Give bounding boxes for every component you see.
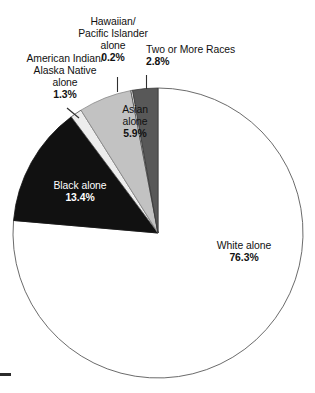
slice-label-black: Black alone 13.4% xyxy=(28,180,132,204)
slice-value-american-indian: 1.3% xyxy=(0,89,130,101)
slice-value-white: 76.3% xyxy=(196,252,292,264)
slice-label-two-or-more-line1: Two or More Races xyxy=(146,44,272,56)
slice-label-hawaiian-line1: Hawaiian/ xyxy=(52,16,174,28)
corner-tick-mark xyxy=(0,373,11,376)
slice-label-two-or-more: Two or More Races 2.8% xyxy=(146,44,272,68)
slice-label-white-line1: White alone xyxy=(196,240,292,252)
slice-value-asian: 5.9% xyxy=(108,128,162,140)
slice-label-white: White alone 76.3% xyxy=(196,240,292,264)
slice-label-hawaiian-line2: Pacific Islander xyxy=(52,28,174,40)
slice-label-american-indian-line1: American Indian/ xyxy=(0,53,130,65)
slice-label-asian-line2: alone xyxy=(108,116,162,128)
slice-label-american-indian-line2: Alaska Native xyxy=(0,65,130,77)
slice-label-black-line1: Black alone xyxy=(28,180,132,192)
slice-value-black: 13.4% xyxy=(28,192,132,204)
slice-label-american-indian: American Indian/ Alaska Native alone 1.3… xyxy=(0,53,130,100)
pie-chart: Hawaiian/ Pacific Islander alone 0.2% Tw… xyxy=(0,0,315,393)
slice-label-american-indian-line3: alone xyxy=(0,77,130,89)
slice-label-asian-line1: Asian xyxy=(108,104,162,116)
slice-value-two-or-more: 2.8% xyxy=(146,56,272,68)
slice-label-asian: Asian alone 5.9% xyxy=(108,104,162,140)
